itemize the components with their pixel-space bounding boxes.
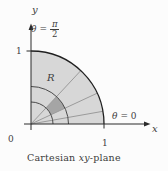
y-axis-label: y [32, 5, 38, 15]
equals-sign: = [39, 25, 47, 34]
x-axis-label: x [152, 124, 158, 134]
theta-equals-0-label: θ = 0 [112, 112, 137, 121]
origin-label: 0 [8, 135, 14, 144]
x-axis-arrowhead-icon [144, 122, 151, 127]
theta-equals-pi-over-2-label: θ = π 2 [31, 20, 59, 39]
y-axis-tick-label-1: 1 [16, 47, 22, 56]
pi-numerator: π [52, 20, 58, 29]
equals-zero: = 0 [120, 112, 136, 121]
region-R-label: R [47, 73, 55, 83]
caption-xy-italic: xy [79, 152, 90, 163]
caption-prefix: Cartesian [27, 152, 79, 163]
theta-symbol: θ [112, 112, 117, 121]
pi-over-2-fraction: π 2 [50, 20, 59, 39]
polar-region-diagram [0, 0, 168, 171]
theta-symbol: θ [31, 25, 36, 34]
cartesian-xy-plane-figure: y θ = π 2 1 R θ = 0 x 0 1 Cartesian xy-p… [0, 0, 168, 171]
caption-suffix: -plane [90, 152, 121, 163]
fraction-denominator: 2 [50, 29, 59, 39]
figure-caption: Cartesian xy-plane [27, 153, 121, 163]
x-axis-tick-label-1: 1 [102, 139, 108, 148]
